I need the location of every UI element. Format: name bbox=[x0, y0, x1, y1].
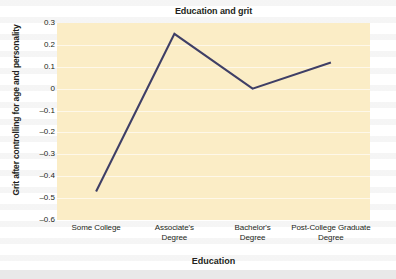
chart-title: Education and grit bbox=[57, 6, 370, 16]
y-tick-label: –0.3 bbox=[27, 149, 55, 158]
y-tick-label: –0.2 bbox=[27, 127, 55, 136]
chart-figure: Education and grit Grit after controllin… bbox=[0, 0, 396, 279]
x-tick-label: Post-College GraduateDegree bbox=[276, 223, 386, 243]
x-axis-title: Education bbox=[57, 256, 370, 266]
y-tick-label: 0.2 bbox=[27, 40, 55, 49]
y-tick-label: 0.1 bbox=[27, 62, 55, 71]
series-line-grit bbox=[57, 23, 370, 220]
y-tick-label: 0 bbox=[27, 84, 55, 93]
y-tick-label: –0.1 bbox=[27, 106, 55, 115]
y-tick-label: 0.3 bbox=[27, 18, 55, 27]
gridline bbox=[57, 220, 370, 221]
y-axis-title: Grit after controlling for age and perso… bbox=[11, 12, 21, 208]
x-tick-label-line: Degree bbox=[276, 233, 386, 243]
plot-area bbox=[57, 23, 370, 220]
y-tick-label: –0.5 bbox=[27, 193, 55, 202]
page-bottom-strip bbox=[0, 270, 396, 279]
x-axis-tick-labels: Some CollegeAssociate'sDegreeBachelor'sD… bbox=[57, 223, 396, 255]
y-tick-label: –0.4 bbox=[27, 171, 55, 180]
x-tick-label-line: Post-College Graduate bbox=[276, 223, 386, 233]
y-axis-tick-labels: 0.30.20.10–0.1–0.2–0.3–0.4–0.5–0.6 bbox=[24, 23, 55, 220]
